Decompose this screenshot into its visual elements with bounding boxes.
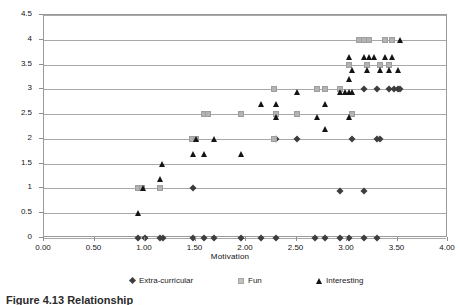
legend-item-extra-curricular: Extra-curricular — [130, 276, 193, 285]
x-tick-label: 3.50 — [389, 244, 405, 252]
x-tick-mark — [43, 237, 44, 241]
chart-legend: Extra-curricular Fun Interesting — [0, 276, 460, 290]
legend-item-interesting: Interesting — [316, 276, 363, 285]
legend-label: Fun — [248, 276, 262, 285]
square-marker-icon — [238, 278, 244, 284]
x-tick-mark — [144, 237, 145, 241]
x-tick-label: 3.00 — [338, 244, 354, 252]
figure-caption: Figure 4.13 Relationship — [6, 294, 133, 305]
x-tick-mark — [245, 237, 246, 241]
x-tick-label: 1.50 — [187, 244, 203, 252]
legend-label: Interesting — [326, 276, 363, 285]
legend-label: Extra-curricular — [139, 276, 193, 285]
x-tick-mark — [195, 237, 196, 241]
x-tick-mark — [296, 237, 297, 241]
x-tick-mark — [94, 237, 95, 241]
x-tick-label: 4.00 — [439, 244, 455, 252]
x-tick-mark — [447, 237, 448, 241]
x-tick-mark — [346, 237, 347, 241]
diamond-marker-icon — [129, 277, 136, 284]
x-tick-label: 1.00 — [136, 244, 152, 252]
x-axis-title: Motivation — [0, 252, 460, 261]
x-tick-label: 0.50 — [86, 244, 102, 252]
legend-item-fun: Fun — [238, 276, 262, 285]
x-tick-mark — [397, 237, 398, 241]
figure-container: 00.511.522.533.544.5 0.000.501.001.502.0… — [0, 0, 460, 305]
triangle-marker-icon — [316, 278, 322, 284]
x-tick-label: 2.50 — [288, 244, 304, 252]
x-tick-label: 2.00 — [237, 244, 253, 252]
x-tick-label: 0.00 — [35, 244, 51, 252]
